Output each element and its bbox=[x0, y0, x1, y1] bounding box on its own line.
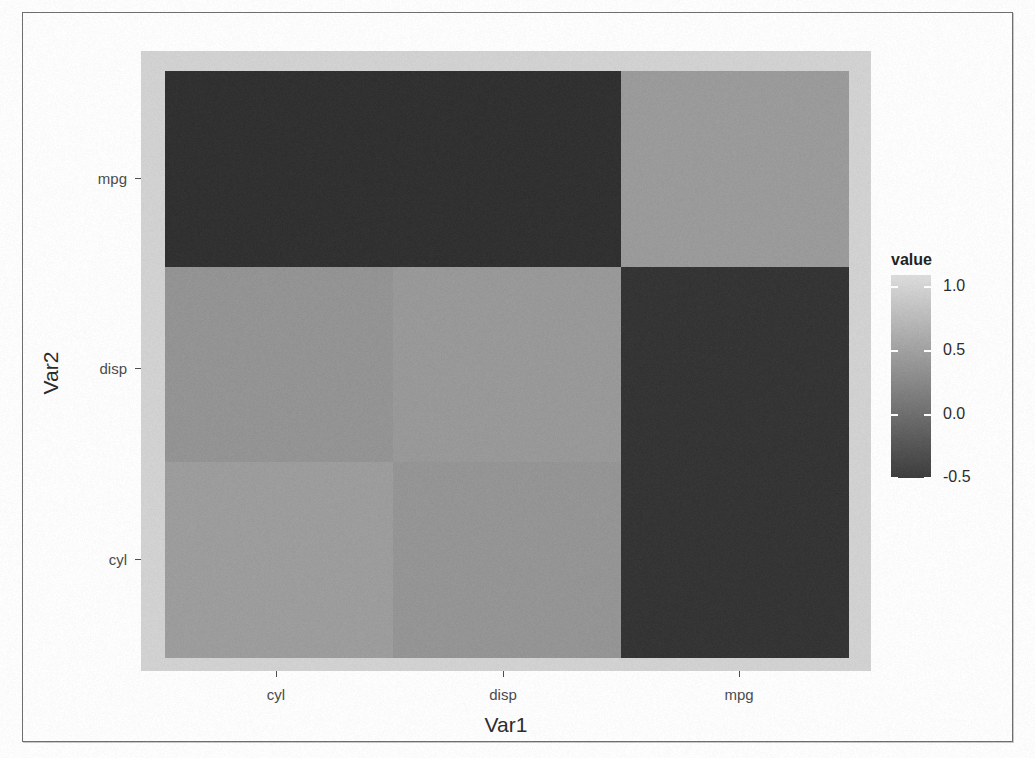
legend: value 1.0 0.5 0.0 -0.5 bbox=[891, 251, 1011, 485]
x-axis-label-mpg: mpg bbox=[724, 686, 753, 703]
heatmap-tile-mpg-disp[interactable] bbox=[393, 71, 621, 267]
legend-tick-1.0-right bbox=[924, 286, 931, 288]
heatmap-tile-disp-disp[interactable] bbox=[393, 267, 621, 463]
heatmap-tile-cyl-cyl[interactable] bbox=[165, 462, 393, 658]
x-tick-mark-disp bbox=[503, 671, 504, 677]
legend-body: 1.0 0.5 0.0 -0.5 bbox=[891, 275, 1011, 485]
heatmap-tile-cyl-disp[interactable] bbox=[393, 462, 621, 658]
legend-title: value bbox=[891, 251, 1011, 269]
legend-tick-1.0-left bbox=[891, 286, 898, 288]
legend-tick-minus0.5-left bbox=[891, 477, 898, 479]
x-axis-label-disp: disp bbox=[489, 686, 517, 703]
y-tick-mark-mpg bbox=[135, 178, 141, 179]
y-axis-title: Var2 bbox=[39, 303, 63, 443]
y-axis-label-mpg: mpg bbox=[33, 170, 127, 187]
x-tick-mark-cyl bbox=[276, 671, 277, 677]
x-axis-title: Var1 bbox=[23, 713, 989, 737]
scanned-page-frame: mpg disp cyl cyl disp mpg Var1 Var2 valu… bbox=[22, 12, 1013, 742]
legend-label-1.0: 1.0 bbox=[943, 277, 965, 295]
heatmap-tile-disp-cyl[interactable] bbox=[165, 267, 393, 463]
legend-tick-0.5-left bbox=[891, 350, 898, 352]
legend-label-0.5: 0.5 bbox=[943, 341, 965, 359]
heatmap-tile-mpg-cyl[interactable] bbox=[165, 71, 393, 267]
legend-tick-0.5-right bbox=[924, 350, 931, 352]
heatmap-tile-disp-mpg[interactable] bbox=[621, 267, 849, 463]
legend-label-0.0: 0.0 bbox=[943, 405, 965, 423]
legend-tick-minus0.5-right bbox=[924, 477, 931, 479]
legend-label-minus0.5: -0.5 bbox=[943, 468, 971, 486]
heatmap-tile-cyl-mpg[interactable] bbox=[621, 462, 849, 658]
y-tick-mark-disp bbox=[135, 368, 141, 369]
heatmap-plot: mpg disp cyl cyl disp mpg Var1 Var2 valu… bbox=[23, 13, 1035, 758]
heatmap-tile-grid bbox=[165, 71, 849, 658]
y-tick-mark-cyl bbox=[135, 559, 141, 560]
y-axis-label-cyl: cyl bbox=[33, 551, 127, 568]
legend-tick-0.0-left bbox=[891, 414, 898, 416]
legend-tick-0.0-right bbox=[924, 414, 931, 416]
x-tick-mark-mpg bbox=[739, 671, 740, 677]
legend-colorbar[interactable] bbox=[891, 275, 931, 478]
heatmap-tile-mpg-mpg[interactable] bbox=[621, 71, 849, 267]
screenshot-root: mpg disp cyl cyl disp mpg Var1 Var2 valu… bbox=[0, 0, 1035, 758]
x-axis-label-cyl: cyl bbox=[267, 686, 285, 703]
